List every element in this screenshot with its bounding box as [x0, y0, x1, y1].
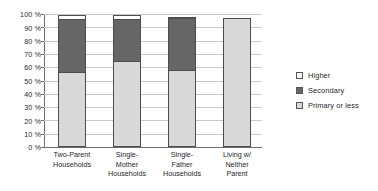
y-tick-label: 0 %	[1, 143, 41, 152]
legend-item-primary-or-less[interactable]: Primary or less	[296, 99, 376, 112]
legend-item-secondary[interactable]: Secondary	[296, 84, 376, 97]
bar-stack[interactable]	[168, 17, 196, 147]
legend-item-higher[interactable]: Higher	[296, 69, 376, 82]
legend-swatch-higher-icon	[296, 72, 303, 79]
y-tick-label: 10 %	[1, 130, 41, 139]
y-tick-label: 70 %	[1, 50, 41, 59]
bar-group-two-parent[interactable]	[58, 14, 86, 147]
legend-swatch-secondary-icon	[296, 87, 303, 94]
y-tick-label: 50 %	[1, 77, 41, 86]
plot-area	[44, 14, 262, 147]
y-tick-label: 60 %	[1, 63, 41, 72]
bar-segment-primary-or-less[interactable]	[224, 19, 250, 146]
bars	[44, 14, 262, 147]
legend-label-primary-or-less: Primary or less	[308, 101, 359, 110]
y-tick-label: 40 %	[1, 90, 41, 99]
y-tick-label: 100 %	[1, 10, 41, 19]
bar-segment-primary-or-less[interactable]	[114, 62, 140, 146]
bar-stack[interactable]	[223, 18, 251, 147]
gridline-0	[44, 147, 262, 148]
y-axis-labels: 100 % 90 % 80 % 70 % 60 % 50 % 40 % 30 %…	[0, 0, 41, 191]
bar-segment-secondary[interactable]	[114, 19, 140, 62]
bar-segment-secondary[interactable]	[169, 18, 195, 72]
bar-segment-primary-or-less[interactable]	[169, 71, 195, 146]
y-tick-label: 80 %	[1, 37, 41, 46]
stacked-bar-chart: 100 % 90 % 80 % 70 % 60 % 50 % 40 % 30 %…	[0, 0, 378, 191]
bar-group-single-mother[interactable]	[113, 14, 141, 147]
y-tick-label: 30 %	[1, 103, 41, 112]
bar-group-living-neither-parent[interactable]	[223, 14, 251, 147]
legend-swatch-primary-icon	[296, 102, 303, 109]
bar-segment-primary-or-less[interactable]	[59, 73, 85, 146]
bar-group-single-father[interactable]	[168, 14, 196, 147]
bar-stack[interactable]	[113, 15, 141, 147]
x-label-living-neither-parent: Living w/ Neither Parent	[205, 150, 269, 179]
legend-label-secondary: Secondary	[308, 86, 344, 95]
bar-stack[interactable]	[58, 15, 86, 147]
x-axis-labels: Two-Parent Households Single- Mother Hou…	[44, 150, 262, 191]
y-tick-label: 90 %	[1, 24, 41, 33]
legend-label-higher: Higher	[308, 71, 330, 80]
y-tick-label: 20 %	[1, 117, 41, 126]
bar-segment-secondary[interactable]	[59, 19, 85, 73]
legend: Higher Secondary Primary or less	[296, 69, 376, 114]
